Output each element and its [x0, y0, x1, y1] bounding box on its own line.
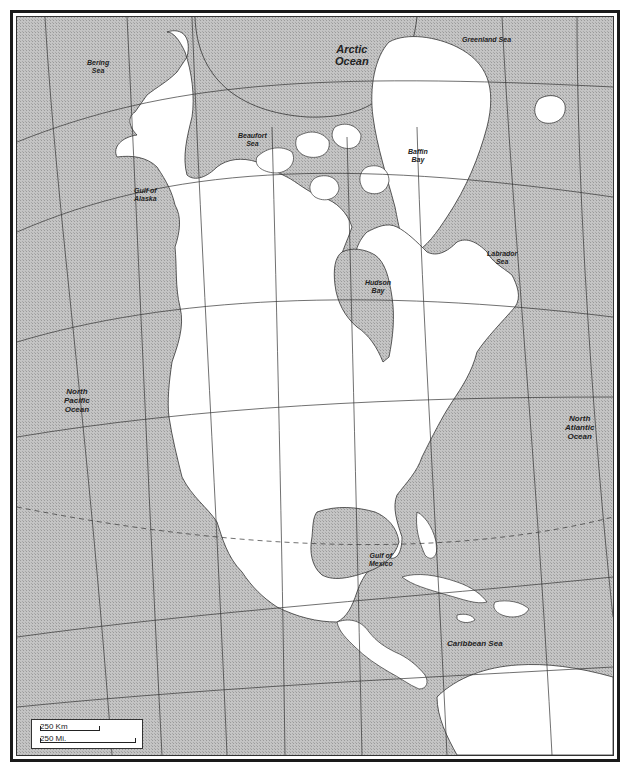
- label-bering-sea: BeringSea: [87, 59, 109, 74]
- label-north-atlantic-ocean: NorthAtlanticOcean: [565, 415, 594, 441]
- label-gulf-of-alaska: Gulf ofAlaska: [134, 187, 157, 202]
- map-area: BeringSea ArcticOcean Greenland Sea Beau…: [16, 16, 614, 756]
- north-america-map: [17, 17, 613, 755]
- map-frame: BeringSea ArcticOcean Greenland Sea Beau…: [10, 10, 620, 762]
- label-baffin-bay: BaffinBay: [408, 148, 428, 163]
- scale-km-bar: [40, 726, 100, 731]
- label-labrador-sea: LabradorSea: [487, 250, 517, 265]
- victoria-island: [310, 176, 339, 200]
- label-beaufort-sea: BeaufortSea: [238, 132, 267, 147]
- label-hudson-bay: HudsonBay: [365, 279, 391, 294]
- iceland-landmass: [535, 96, 566, 124]
- label-greenland-sea: Greenland Sea: [462, 36, 511, 44]
- baffin-island: [360, 166, 389, 194]
- label-arctic-ocean: ArcticOcean: [335, 43, 369, 67]
- scale-mi-bar: [40, 738, 136, 743]
- arctic-island: [296, 132, 330, 157]
- label-north-pacific-ocean: NorthPacificOcean: [64, 388, 90, 414]
- label-caribbean-sea: Caribbean Sea: [447, 640, 503, 649]
- south-america-landmass: [437, 665, 613, 756]
- label-gulf-of-mexico: Gulf ofMexico: [369, 552, 393, 567]
- scale-bar: 250 Km 250 Mi.: [31, 719, 143, 749]
